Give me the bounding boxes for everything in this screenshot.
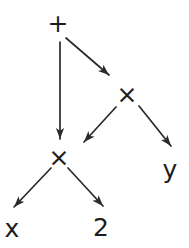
edge-times-upper-to-times-lower xyxy=(84,107,116,142)
expression-dag: +××yx2 xyxy=(0,0,189,248)
edge-plus-to-times-upper xyxy=(66,38,109,75)
diagram-canvas: +××yx2 xyxy=(0,0,189,248)
node-times-upper: × xyxy=(117,80,138,109)
edge-times-lower-to-x xyxy=(14,168,51,207)
node-plus: + xyxy=(48,9,69,38)
node-times-lower: × xyxy=(49,143,70,172)
node-y: y xyxy=(163,155,178,184)
node-two: 2 xyxy=(93,213,109,242)
edge-times-upper-to-y xyxy=(139,106,171,146)
node-x: x xyxy=(5,214,20,243)
edge-times-lower-to-two xyxy=(68,168,103,206)
